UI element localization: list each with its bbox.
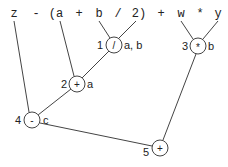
node-2-op: +: [74, 79, 80, 90]
node-3-id: 3: [182, 40, 188, 52]
node-4: - 4 c: [15, 112, 49, 128]
node-5-id: 5: [143, 146, 149, 158]
node-1: / 1 a, b: [97, 37, 142, 53]
edge-3-to-5: [163, 54, 196, 140]
edge-4-to-5: [40, 123, 152, 146]
edge-z-to-4: [14, 21, 29, 112]
node-4-annotation: c: [43, 114, 49, 126]
edge-b-to-1: [99, 21, 110, 38]
token-star: *: [196, 7, 203, 21]
token-slash: /: [114, 7, 121, 21]
token-minus: -: [32, 7, 39, 21]
edge-a-to-2: [60, 21, 74, 76]
node-2-annotation: a: [87, 78, 94, 90]
node-3: * 3 b: [182, 38, 214, 54]
edge-2-to-4: [38, 89, 71, 115]
expression-text: z - (a + b / 2) + w * y: [10, 7, 221, 21]
node-3-op: *: [196, 42, 200, 53]
expression-dag: z - (a + b / 2) + w * y / 1 a, b + 2 a *…: [0, 0, 228, 167]
node-1-annotation: a, b: [124, 39, 142, 51]
token-y: y: [214, 7, 221, 21]
token-2-close: 2): [132, 7, 146, 21]
token-b: b: [95, 7, 102, 21]
node-1-id: 1: [97, 39, 103, 51]
token-open-a: (a: [49, 7, 63, 21]
token-w: w: [177, 7, 185, 21]
token-plus-2: +: [157, 7, 164, 21]
token-plus: +: [75, 7, 82, 21]
node-5-op: +: [157, 143, 163, 154]
node-2-id: 2: [61, 78, 67, 90]
node-2: + 2 a: [61, 76, 94, 92]
edge-w-to-3: [181, 21, 193, 39]
edge-y-to-3: [203, 21, 218, 39]
node-1-op: /: [113, 40, 116, 51]
node-4-op: -: [30, 115, 33, 126]
node-5: + 5: [143, 140, 168, 158]
edge-2-to-1: [119, 21, 136, 38]
node-3-annotation: b: [208, 40, 214, 52]
node-4-id: 4: [15, 114, 21, 126]
token-z: z: [10, 7, 17, 21]
edge-1-to-2: [82, 51, 109, 78]
